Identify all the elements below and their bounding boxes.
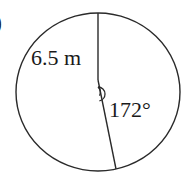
circle-sector-diagram: ) 6.5 m 172° (0, 0, 190, 174)
part-label: ) (0, 9, 2, 35)
radius-label: 6.5 m (31, 45, 81, 70)
angle-label: 172° (109, 97, 151, 122)
